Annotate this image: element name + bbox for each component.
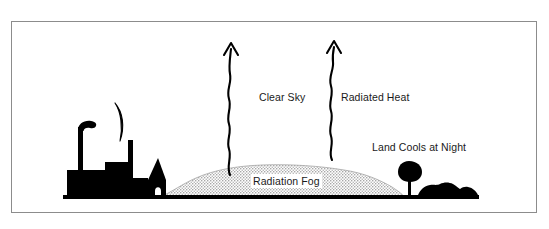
factory-silhouette — [67, 162, 128, 195]
bush-small — [456, 187, 478, 195]
wavy-arrow-right — [327, 41, 341, 160]
smokestack-cap — [78, 121, 96, 131]
radiation-fog-scene — [0, 0, 549, 229]
ground-line — [63, 195, 479, 199]
label-clear-sky: Clear Sky — [259, 91, 305, 103]
crescent-moon-icon — [115, 103, 123, 141]
factory-annex — [128, 178, 148, 195]
tree-trunk — [408, 178, 411, 196]
label-radiation-fog: Radiation Fog — [251, 174, 322, 188]
smokestack — [78, 127, 83, 170]
label-land-cools-at-night: Land Cools at Night — [372, 141, 466, 153]
figure-root: Clear Sky Radiated Heat Land Cools at Ni… — [0, 0, 549, 229]
church-window — [155, 187, 161, 195]
wavy-arrow-left — [224, 43, 238, 175]
label-radiated-heat: Radiated Heat — [341, 91, 409, 103]
